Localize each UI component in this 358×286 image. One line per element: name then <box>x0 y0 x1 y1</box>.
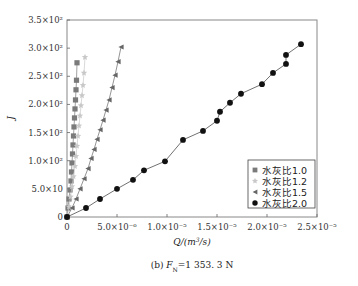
legend-label: 水灰比1.0 <box>262 165 307 176</box>
y-tick-label: 3.5×10² <box>28 15 63 25</box>
chart-figure: 05.0×101.0×10²1.5×10²2.0×10²2.5×10²3.0×1… <box>0 0 358 286</box>
y-tick-label: 1.0×10² <box>28 156 63 166</box>
figure-caption: (b) FN=1 353. 3 N <box>151 260 234 273</box>
y-tick-label: 1.5×10² <box>28 128 63 138</box>
y-tick-label: 0 <box>58 212 63 222</box>
y-tick-label: 2.5×10² <box>28 71 63 81</box>
x-tick-label: 0 <box>64 222 69 232</box>
y-tick-label: 3.0×10² <box>28 43 63 53</box>
legend-label: 水灰比1.5 <box>262 187 307 198</box>
x-tick-label: 1.5×10⁻⁵ <box>197 222 237 232</box>
legend-label: 水灰比1.2 <box>262 176 307 187</box>
y-tick-label: 5.0×10 <box>32 184 63 194</box>
x-tick-label: 1.0×10⁻⁵ <box>147 222 187 232</box>
y-axis: 05.0×101.0×10²1.5×10²2.0×10²2.5×10²3.0×1… <box>28 15 70 222</box>
y-tick-label: 2.0×10² <box>28 99 63 109</box>
legend-label: 水灰比2.0 <box>262 198 307 209</box>
x-tick-label: 2.5×10⁻⁵ <box>297 222 337 232</box>
y-axis-title: J <box>6 115 16 122</box>
x-tick-label: 2.0×10⁻⁵ <box>247 222 287 232</box>
x-axis-title: Q/(m3/s) <box>173 236 211 248</box>
x-tick-label: 5.0×10⁻⁶ <box>97 222 137 232</box>
legend: 水灰比1.0水灰比1.2水灰比1.5水灰比2.0 <box>248 160 315 209</box>
